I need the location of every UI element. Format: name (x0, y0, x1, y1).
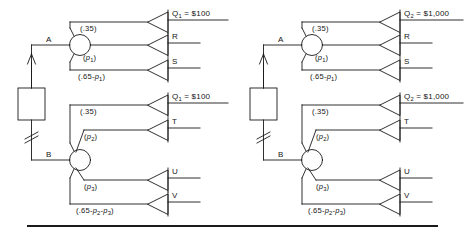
probability-label-a-mid-right: (p1) (315, 54, 328, 64)
terminal-triangle (148, 35, 168, 55)
terminal-label-v-right: V (404, 192, 410, 200)
terminal-label-t-right: T (404, 118, 409, 126)
probability-label-a-bottom-right: (.65-p1) (310, 73, 337, 83)
terminal-label-q1-bottom-left: Q1 = $100 (172, 93, 210, 103)
probability-label-b-u-right: (p3) (316, 183, 329, 193)
probability-label-b-bottom-right: (.65-p2-p3) (308, 207, 346, 217)
terminal-label-r-right: R (404, 33, 410, 41)
probability-label-b-top-right: (.35) (312, 108, 329, 116)
terminal-label-r-left: R (172, 33, 178, 41)
probability-label-a-bottom-left: (.65-p1) (78, 73, 105, 83)
probability-label-b-top-left: (.35) (80, 108, 97, 116)
probability-label-b-mid-left: (p2) (84, 133, 97, 143)
chance-node-a-label-left: A (46, 36, 52, 44)
terminal-triangle (380, 35, 400, 55)
probability-label-a-top-left: (.35) (80, 25, 97, 33)
terminal-triangle (148, 95, 168, 115)
probability-label-a-top-right: (.35) (312, 25, 329, 33)
chance-node-b-left (70, 150, 91, 171)
terminal-label-u-right: U (404, 168, 410, 176)
terminal-triangle (148, 120, 168, 140)
terminal-triangle (380, 170, 400, 190)
terminal-label-q1-top-left: Q1 = $100 (172, 10, 210, 20)
diagram-vector-layer (0, 0, 465, 236)
decision-square-left (18, 88, 45, 120)
probability-label-a-mid-left: (p1) (83, 54, 96, 64)
terminal-label-q2-top-right: Q2 = $1,000 (404, 10, 449, 20)
terminal-label-t-left: T (172, 118, 177, 126)
terminal-triangle (380, 120, 400, 140)
diagram-canvas: A B (.35) (p1) (.65-p1) (.35) (p2) (p3) … (0, 0, 465, 236)
probability-label-b-u-left: (p3) (84, 183, 97, 193)
chance-node-a-label-right: A (278, 36, 284, 44)
decision-square-right (250, 88, 277, 120)
terminal-label-u-left: U (172, 168, 178, 176)
terminal-label-v-left: V (172, 192, 178, 200)
chance-node-b-label-right: B (278, 151, 284, 159)
terminal-triangle (380, 194, 400, 214)
terminal-triangle (148, 12, 168, 32)
terminal-triangle (148, 60, 168, 80)
chance-node-b-label-left: B (46, 151, 52, 159)
terminal-triangle (380, 95, 400, 115)
terminal-triangle (148, 194, 168, 214)
terminal-label-s-left: S (172, 58, 178, 66)
terminal-triangle (380, 60, 400, 80)
terminal-label-q2-bottom-right: Q2 = $1,000 (404, 93, 449, 103)
terminal-triangle (148, 170, 168, 190)
terminal-label-s-right: S (404, 58, 410, 66)
probability-label-b-mid-right: (p2) (316, 133, 329, 143)
terminal-triangle (380, 12, 400, 32)
chance-node-b-right (302, 150, 323, 171)
probability-label-b-bottom-left: (.65-p2-p3) (76, 207, 114, 217)
